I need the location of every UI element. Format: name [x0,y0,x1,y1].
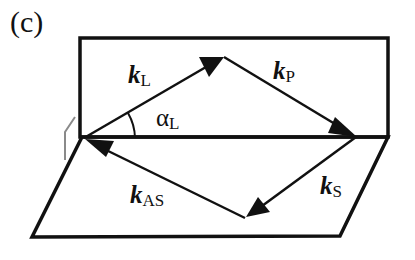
vector-k-S [246,137,356,217]
upper-plane [80,38,388,137]
label-alpha-L: αL [156,104,180,133]
phase-matching-diagram: (c) kL kP αL kS kAS [0,0,415,260]
panel-label: (c) [10,5,43,39]
vector-k-AS [85,139,245,218]
label-k-P: kP [273,57,295,86]
arrowhead-k-L [199,57,224,77]
label-k-AS: kAS [130,181,164,210]
angle-arc-alpha [128,113,135,138]
vector-k-L [84,57,224,138]
label-k-L: kL [128,61,151,90]
arrowhead-k-S [246,197,270,217]
arrowhead-k-P [328,117,357,137]
arrowhead-k-AS [85,139,114,157]
label-k-S: kS [320,172,342,201]
